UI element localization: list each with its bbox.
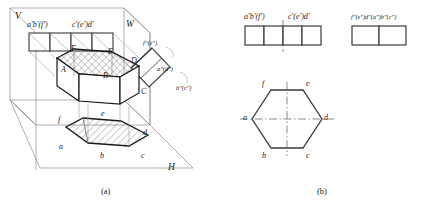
plane-label-h: H [168, 163, 175, 173]
front-view-label-left: a'b'(f') [244, 13, 265, 21]
side-view-label: f"(e")d"(a")b"(c") [351, 14, 396, 20]
w-plane-projection-label-bc: b"(c") [176, 85, 191, 91]
top-view-vertex-a: a [243, 114, 247, 122]
top-view-vertex-c: c [306, 152, 310, 160]
orthographic-side-view-boxes [352, 26, 406, 45]
top-view-vertex-b: b [262, 152, 266, 160]
w-plane-projection-label-ad: a"(d") [157, 66, 173, 72]
h-plane-vertex-e: e [101, 110, 105, 118]
h-plane-vertex-a: a [59, 143, 63, 151]
plane-label-v: V [15, 12, 21, 22]
figure-vector-graphics [0, 0, 428, 205]
h-plane-vertex-d: d [143, 129, 147, 137]
solid-vertex-d: D [131, 57, 137, 65]
engineering-projection-figure: V W H A B C D E F a b c d e f a'b'(f') c… [0, 0, 428, 205]
solid-vertex-f: F [71, 45, 76, 53]
caption-b: (b) [317, 186, 327, 196]
top-view-vertex-e: e [306, 80, 310, 88]
solid-vertex-a: A [61, 66, 66, 74]
top-view-vertex-d: d [324, 114, 328, 122]
v-plane-projection-label-abf: a'b'(f') [27, 21, 48, 29]
solid-vertex-c: C [141, 88, 146, 96]
solid-vertex-e: E [108, 48, 113, 56]
h-plane-top-projection [66, 118, 148, 146]
front-view-label-right: c'(e')d' [288, 13, 310, 21]
solid-vertex-b: B [103, 72, 108, 80]
h-plane-vertex-c: c [141, 152, 145, 160]
h-plane-vertex-b: b [100, 152, 104, 160]
v-plane-projection-label-ced: c'(e')d' [72, 21, 94, 29]
plane-label-w: W [126, 20, 134, 30]
caption-a: (a) [101, 186, 110, 196]
top-view-vertex-f: f [262, 80, 264, 88]
h-plane-vertex-f: f [58, 116, 60, 124]
w-plane-projection-label-fe: f"(e") [143, 40, 157, 46]
